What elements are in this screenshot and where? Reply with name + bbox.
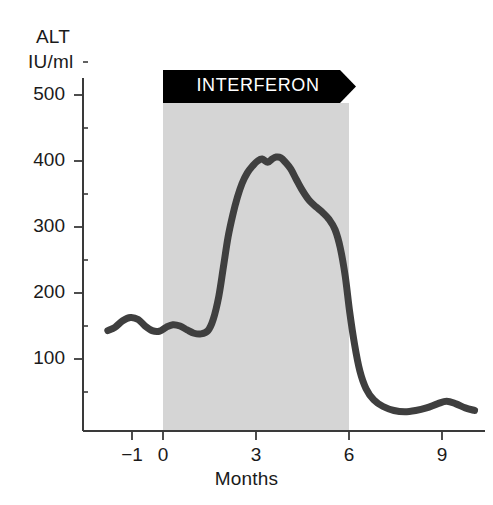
chart-figure: ALT IU/ml Months 100200300400500 −10369 … (0, 0, 493, 505)
treatment-shaded-region (163, 103, 349, 431)
x-axis-label: Months (0, 468, 493, 490)
interferon-banner-shape (163, 70, 356, 103)
chart-plot-area (0, 0, 493, 505)
y-axis-tick-label: 300 (5, 215, 65, 237)
y-axis-label-line1: ALT (36, 26, 70, 48)
x-axis-tick-label: 0 (143, 444, 183, 466)
y-axis-label-line2: IU/ml (28, 51, 73, 73)
y-axis-tick-label: 200 (5, 281, 65, 303)
x-axis-tick-label: 3 (236, 444, 276, 466)
y-axis-tick-label: 100 (5, 347, 65, 369)
y-axis-tick-label: 400 (5, 149, 65, 171)
x-axis-tick-label: 9 (422, 444, 462, 466)
y-axis-tick-label: 500 (5, 83, 65, 105)
x-axis-tick-label: 6 (329, 444, 369, 466)
